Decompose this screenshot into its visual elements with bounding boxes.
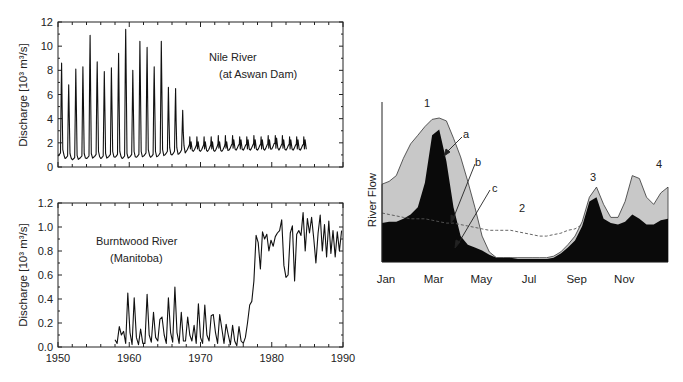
burntwood-chart: Discharge [10³ m³/s] 0.00.20.40.60.81.01… — [17, 197, 355, 364]
burntwood-y-tick-label: 0.4 — [38, 293, 53, 305]
burntwood-plot-frame — [58, 203, 343, 347]
river-regime-diagram: River Flow JanMarMayJulSepNov 1 2 3 4 a … — [366, 97, 668, 285]
nile-y-tick-label: 10 — [41, 40, 53, 52]
month-label-mar: Mar — [424, 273, 444, 285]
burntwood-x-tick-label: 1960 — [117, 352, 141, 364]
burntwood-x-tick-label: 1970 — [188, 352, 212, 364]
nile-label-line1: Nile River — [209, 51, 257, 63]
burntwood-y-axis-title: Discharge [10³ m³/s] — [17, 223, 29, 327]
nile-label-line2: (at Aswan Dam) — [219, 68, 297, 80]
figure-canvas: Discharge [10³ m³/s] 024681012 Nile Rive… — [0, 0, 683, 382]
burntwood-y-tick-label: 0.2 — [38, 317, 53, 329]
annotation-a: a — [463, 128, 470, 140]
nile-discharge-line — [58, 29, 306, 160]
nile-y-axis-title: Discharge [10³ m³/s] — [17, 43, 29, 147]
burntwood-label-line1: Burntwood River — [96, 235, 178, 247]
nile-x-ticks — [58, 22, 343, 167]
annotation-3: 3 — [590, 171, 596, 183]
burntwood-y-ticks: 0.00.20.40.60.81.01.2 — [38, 197, 343, 353]
annotation-b: b — [475, 156, 481, 168]
annotation-c: c — [492, 182, 498, 194]
nile-chart: Discharge [10³ m³/s] 024681012 Nile Rive… — [17, 16, 343, 173]
nile-y-tick-label: 12 — [41, 16, 53, 28]
annotation-4: 4 — [656, 158, 662, 170]
burntwood-y-tick-label: 0.6 — [38, 269, 53, 281]
regime-y-axis-title: River Flow — [366, 172, 378, 227]
annotation-1: 1 — [424, 97, 430, 109]
nile-y-tick-label: 4 — [47, 113, 53, 125]
nile-plot-frame — [58, 22, 343, 167]
month-label-jul: Jul — [522, 273, 537, 285]
burntwood-y-tick-label: 1.2 — [38, 197, 53, 209]
nile-y-tick-label: 8 — [47, 64, 53, 76]
annotation-2: 2 — [519, 202, 525, 214]
burntwood-y-tick-label: 0.8 — [38, 245, 53, 257]
burntwood-discharge-line — [115, 213, 342, 346]
nile-y-tick-label: 2 — [47, 137, 53, 149]
burntwood-x-tick-label: 1980 — [260, 352, 284, 364]
burntwood-x-tick-label: 1950 — [46, 352, 70, 364]
burntwood-label-line2: (Manitoba) — [110, 252, 163, 264]
burntwood-y-tick-label: 1.0 — [38, 221, 53, 233]
nile-y-tick-label: 0 — [47, 161, 53, 173]
regime-month-labels: JanMarMayJulSepNov — [377, 273, 635, 285]
nile-y-tick-label: 6 — [47, 89, 53, 101]
month-label-jan: Jan — [377, 273, 396, 285]
burntwood-x-tick-label: 1990 — [331, 352, 355, 364]
month-label-nov: Nov — [614, 273, 635, 285]
month-label-may: May — [470, 273, 492, 285]
month-label-sep: Sep — [566, 273, 586, 285]
